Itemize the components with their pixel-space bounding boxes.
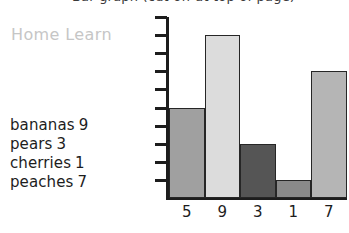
bar	[205, 35, 241, 198]
y-axis-tick	[155, 179, 167, 182]
y-axis-tick	[155, 34, 167, 37]
bar	[240, 144, 276, 198]
y-axis-tick	[155, 143, 167, 146]
plot-area	[169, 17, 347, 198]
y-axis-tick	[155, 161, 167, 164]
bar	[311, 71, 347, 198]
bar	[169, 108, 205, 199]
x-axis-tick-label: 7	[311, 203, 347, 221]
x-axis-tick-label: 3	[240, 203, 276, 221]
bar-series	[169, 17, 347, 198]
x-axis-tick-label: 5	[169, 203, 205, 221]
worksheet-page: Bar graph (cut off at top of page) Home …	[0, 0, 349, 233]
x-axis-tick-labels: 59317	[169, 203, 347, 221]
bar	[276, 180, 312, 198]
y-axis-tick	[155, 16, 167, 19]
y-axis-tick	[155, 107, 167, 110]
y-axis-tick	[155, 52, 167, 55]
x-axis-tick-label: 1	[276, 203, 312, 221]
bar-chart: 59317	[0, 0, 349, 233]
x-axis-tick-label: 9	[205, 203, 241, 221]
y-axis-tick	[155, 88, 167, 91]
y-axis-tick	[155, 125, 167, 128]
y-axis-tick	[155, 70, 167, 73]
